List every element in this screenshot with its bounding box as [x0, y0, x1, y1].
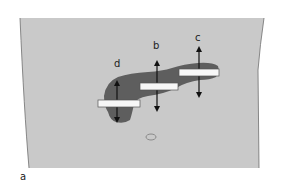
pancreas-transducer-diagram: d b c a	[0, 0, 281, 182]
probe-d	[98, 100, 140, 107]
probe-c	[179, 69, 219, 76]
label-b: b	[153, 40, 159, 51]
label-c: c	[195, 32, 201, 43]
panel-label: a	[20, 171, 26, 182]
probe-b	[140, 83, 178, 90]
label-d: d	[114, 58, 120, 69]
